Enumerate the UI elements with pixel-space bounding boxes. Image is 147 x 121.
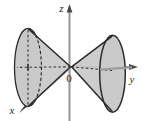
- left-cone-nappe: [15, 29, 71, 107]
- x-axis-label: x: [9, 104, 15, 116]
- origin-label: 0: [66, 72, 72, 84]
- origin-marker: 0: [66, 72, 72, 84]
- z-axis-label: z: [58, 2, 64, 14]
- y-axis-label: y: [129, 73, 135, 85]
- cone-figure-canvas: z y x: [0, 0, 147, 121]
- right-cone-rim-ellipse: [100, 35, 126, 112]
- cone-figure: z y x: [0, 0, 147, 121]
- z-axis-arrowhead: [67, 4, 73, 13]
- right-cone-nappe: [72, 35, 133, 112]
- left-cone-body-fill: [16, 29, 70, 107]
